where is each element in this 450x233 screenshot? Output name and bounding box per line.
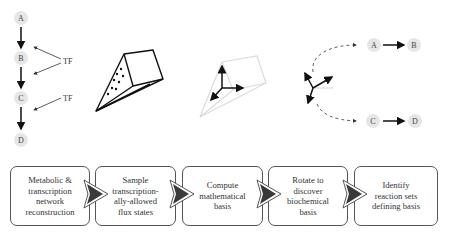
dashed-map-top — [313, 45, 356, 72]
node-d-label: D — [18, 136, 24, 145]
chevron-arrow-icon — [83, 178, 109, 210]
basis-vector-down — [211, 88, 222, 100]
step-network-reconstruction: Metabolic & transcription network recons… — [10, 166, 90, 226]
tf-label-1: TF — [63, 57, 73, 66]
step-4-label: Rotate to discover biochemical basis — [287, 175, 329, 217]
node-c-right-label: C — [370, 117, 375, 126]
chevron-arrow-icon — [256, 178, 282, 210]
node-b-right-label: B — [411, 41, 416, 50]
node-d-right-label: D — [412, 117, 418, 126]
mathematical-basis — [200, 56, 266, 117]
illustration-panel: A B C D TF TF — [0, 0, 450, 165]
node-c-label: C — [18, 94, 23, 103]
rotated-vector-3 — [308, 88, 313, 103]
rotated-vector-2 — [313, 77, 332, 88]
rotated-basis: A B C D — [305, 38, 422, 128]
step-2-label: Sample transcription- ally-allowed flux … — [112, 175, 158, 217]
flux-cone-sampled — [96, 50, 163, 111]
chevron-arrow-icon — [169, 178, 195, 210]
chevron-arrow-icon — [342, 178, 368, 210]
step-5-label: Identify reaction sets defining basis — [372, 180, 420, 212]
tf-arrow-to-c — [34, 98, 61, 110]
pathway-diagram: A B C D TF TF — [14, 11, 73, 147]
tf-label-2: TF — [63, 94, 73, 103]
step-1-label: Metabolic & transcription network recons… — [25, 175, 74, 217]
rotated-vector-1 — [305, 73, 313, 88]
tf-arrow-to-bc — [34, 63, 61, 74]
tf-arrow-to-b — [34, 47, 61, 59]
node-b-label: B — [18, 54, 23, 63]
node-a-label: A — [18, 14, 24, 23]
dashed-map-bottom — [317, 104, 356, 121]
step-3-label: Compute mathematical basis — [199, 180, 245, 212]
node-a-right-label: A — [371, 41, 377, 50]
